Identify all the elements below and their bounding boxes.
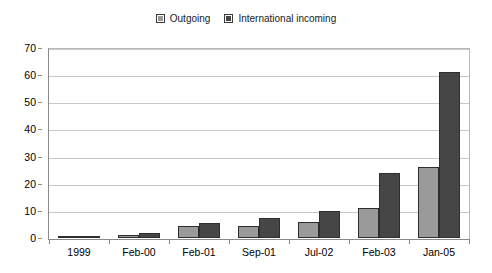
y-tick-mark bbox=[38, 129, 42, 130]
bar-1999-international-incoming bbox=[79, 236, 100, 238]
x-tick-label: Sep-01 bbox=[242, 246, 276, 258]
bar-group bbox=[238, 48, 280, 238]
x-tick-mark bbox=[49, 239, 50, 244]
bar-group bbox=[58, 48, 100, 238]
x-axis: 1999Feb-00Feb-01Sep-01Jul-02Feb-03Jan-05 bbox=[49, 246, 469, 262]
x-axis-ticks bbox=[49, 239, 469, 244]
bar-chart: Outgoing International incoming 01020304… bbox=[0, 0, 492, 273]
y-tick-mark bbox=[38, 238, 42, 239]
y-tick-mark bbox=[38, 75, 42, 76]
x-tick-label: Jul-02 bbox=[305, 246, 334, 258]
bar-jan-05-outgoing bbox=[418, 167, 439, 238]
x-tick-label: 1999 bbox=[67, 246, 90, 258]
x-tick-mark bbox=[109, 239, 110, 244]
y-tick-label: 70 bbox=[24, 43, 36, 54]
legend-label-international-incoming: International incoming bbox=[238, 13, 336, 24]
bar-group bbox=[118, 48, 160, 238]
y-tick-mark bbox=[38, 157, 42, 158]
x-tick-mark bbox=[469, 239, 470, 244]
x-tick-mark bbox=[409, 239, 410, 244]
x-tick-mark bbox=[289, 239, 290, 244]
x-tick-label: Feb-00 bbox=[122, 246, 155, 258]
y-tick-label: 30 bbox=[24, 151, 36, 162]
y-tick-label: 50 bbox=[24, 97, 36, 108]
x-tick-label: Feb-03 bbox=[362, 246, 395, 258]
y-tick-label: 10 bbox=[24, 205, 36, 216]
x-tick-label: Feb-01 bbox=[182, 246, 215, 258]
bar-sep-01-international-incoming bbox=[259, 218, 280, 238]
bars-layer bbox=[49, 48, 469, 238]
x-tick-mark bbox=[349, 239, 350, 244]
bar-group bbox=[178, 48, 220, 238]
x-tick-mark bbox=[229, 239, 230, 244]
bar-feb-03-international-incoming bbox=[379, 173, 400, 238]
bar-feb-01-international-incoming bbox=[199, 223, 220, 238]
y-tick-label: 0 bbox=[30, 233, 36, 244]
bar-feb-00-outgoing bbox=[118, 235, 139, 238]
legend-label-outgoing: Outgoing bbox=[170, 13, 211, 24]
y-tick-label: 60 bbox=[24, 70, 36, 81]
bar-jul-02-outgoing bbox=[298, 222, 319, 238]
bar-group bbox=[358, 48, 400, 238]
y-tick-mark bbox=[38, 48, 42, 49]
y-tick-label: 40 bbox=[24, 124, 36, 135]
bar-feb-03-outgoing bbox=[358, 208, 379, 238]
y-tick-mark bbox=[38, 184, 42, 185]
legend-swatch-international-incoming bbox=[224, 14, 233, 23]
bar-feb-00-international-incoming bbox=[139, 233, 160, 238]
y-axis: 010203040506070 bbox=[0, 48, 42, 238]
y-tick-label: 20 bbox=[24, 178, 36, 189]
x-tick-label: Jan-05 bbox=[423, 246, 455, 258]
y-tick-mark bbox=[38, 102, 42, 103]
bar-jan-05-international-incoming bbox=[439, 72, 460, 238]
bar-jul-02-international-incoming bbox=[319, 211, 340, 238]
x-tick-mark bbox=[169, 239, 170, 244]
bar-group bbox=[418, 48, 460, 238]
chart-legend: Outgoing International incoming bbox=[0, 13, 492, 24]
bar-feb-01-outgoing bbox=[178, 226, 199, 238]
bar-1999-outgoing bbox=[58, 236, 79, 238]
y-tick-mark bbox=[38, 211, 42, 212]
bar-sep-01-outgoing bbox=[238, 226, 259, 238]
legend-entry-international-incoming: International incoming bbox=[224, 13, 336, 24]
legend-entry-outgoing: Outgoing bbox=[156, 13, 211, 24]
legend-swatch-outgoing bbox=[156, 14, 165, 23]
bar-group bbox=[298, 48, 340, 238]
